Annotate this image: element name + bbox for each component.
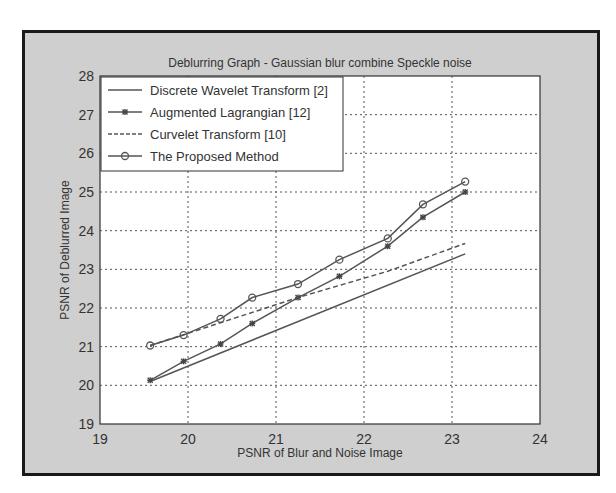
legend-label: The Proposed Method <box>150 149 279 164</box>
y-tick-label: 20 <box>78 377 94 393</box>
x-tick-label: 21 <box>268 431 284 447</box>
legend-label: Curvelet Transform [10] <box>150 127 286 142</box>
y-tick-label: 23 <box>78 261 94 277</box>
chart-title: Deblurring Graph - Gaussian blur combine… <box>168 56 472 70</box>
y-tick-label: 26 <box>78 145 94 161</box>
legend-label: Discrete Wavelet Transform [2] <box>150 83 328 98</box>
y-tick-label: 24 <box>78 223 94 239</box>
y-tick-label: 27 <box>78 107 94 123</box>
legend-label: Augmented Lagrangian [12] <box>150 105 310 120</box>
y-axis-label: PSNR of Deblurred Image <box>58 180 72 320</box>
y-tick-label: 25 <box>78 184 94 200</box>
y-tick-label: 21 <box>78 339 94 355</box>
x-tick-label: 19 <box>92 431 108 447</box>
legend: Discrete Wavelet Transform [2]Augmented … <box>101 77 343 171</box>
line-chart: 19202122232419202122232425262728 Deblurr… <box>0 0 616 493</box>
y-tick-label: 22 <box>78 300 94 316</box>
x-tick-label: 24 <box>532 431 548 447</box>
x-axis-label: PSNR of Blur and Noise Image <box>237 446 403 460</box>
y-tick-label: 19 <box>78 416 94 432</box>
y-tick-label: 28 <box>78 68 94 84</box>
x-tick-label: 20 <box>180 431 196 447</box>
x-tick-label: 22 <box>356 431 372 447</box>
x-tick-label: 23 <box>444 431 460 447</box>
